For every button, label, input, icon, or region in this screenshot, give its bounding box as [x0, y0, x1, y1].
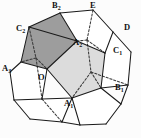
vertex-subscript: 2 — [79, 42, 82, 48]
vertex-subscript: 1 — [70, 103, 73, 109]
vertex-subscript: 2 — [22, 28, 25, 34]
vertex-label-c1: C1 — [113, 46, 122, 55]
vertex-letter: D — [124, 22, 130, 32]
vertex-letter: B — [115, 82, 121, 92]
dodecahedron-figure: B2EC2DA2C1A3OB1A1 — [0, 0, 141, 138]
vertex-label-e: E — [90, 1, 96, 10]
edge — [62, 122, 80, 125]
vertex-label-a3: A3 — [2, 64, 11, 73]
vertex-label-a1: A1 — [64, 99, 73, 108]
vertex-label-a2: A2 — [73, 38, 82, 47]
vertex-label-o: O — [38, 73, 45, 82]
vertex-subscript: 2 — [58, 5, 61, 11]
vertex-letter: O — [38, 72, 45, 82]
vertex-subscript: 1 — [119, 50, 122, 56]
vertex-label-b1: B1 — [115, 83, 124, 92]
vertex-letter: E — [90, 0, 96, 10]
vertex-subscript: 1 — [121, 87, 124, 93]
vertex-subscript: 3 — [8, 68, 11, 74]
vertex-label-c2: C2 — [16, 24, 25, 33]
vertex-label-b2: B2 — [52, 1, 61, 10]
vertex-letter: B — [52, 0, 58, 10]
vertex-label-d: D — [124, 23, 130, 32]
dodecahedron-svg — [0, 0, 141, 138]
